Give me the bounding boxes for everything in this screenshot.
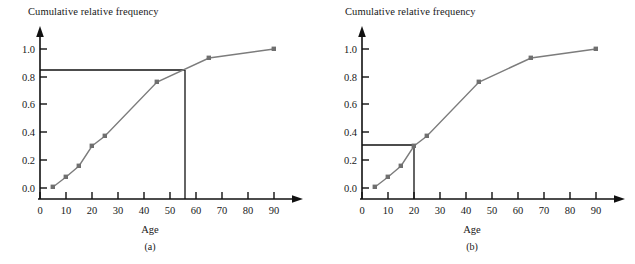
x-tick-label: 40 [461,205,472,216]
y-axis-a [36,26,44,199]
panel-caption-b: (b) [322,241,622,252]
x-tick-label: 70 [539,205,550,216]
x-tick-label: 70 [217,205,228,216]
reference-lines-b [362,145,414,199]
x-tick-label: 10 [383,205,394,216]
cumulative-frequency-curve-b [373,47,598,189]
y-axis-tick-labels-a: 0.0 0.2 0.4 0.6 0.8 1.0 [22,44,36,194]
x-axis-label-a: Age [0,224,300,235]
y-tick-label: 1.0 [344,44,357,55]
y-tick-label: 0.4 [344,127,358,138]
x-tick-label: 0 [37,205,42,216]
figure-cumulative-relative-frequency: Cumulative relative frequency [0,0,635,264]
x-tick-label: 60 [191,205,202,216]
x-tick-label: 90 [591,205,602,216]
y-tick-label: 0.0 [22,183,35,194]
x-tick-label: 10 [61,205,72,216]
x-tick-label: 30 [113,205,124,216]
x-tick-label: 80 [243,205,254,216]
x-axis-tick-labels-b: 0 10 20 30 40 50 60 70 80 90 [359,205,601,216]
cumulative-frequency-curve-a [51,47,276,189]
y-tick-label: 0.6 [344,99,357,110]
x-tick-label: 40 [139,205,150,216]
panel-caption-a: (a) [0,241,300,252]
y-tick-label: 1.0 [22,44,35,55]
y-tick-label: 0.6 [22,99,35,110]
x-tick-label: 30 [435,205,446,216]
y-tick-label: 0.4 [22,127,36,138]
y-tick-label: 0.0 [344,183,357,194]
x-axis-ticks-a [40,192,274,199]
x-tick-label: 20 [87,205,98,216]
data-point-markers-a [51,47,276,189]
x-tick-label: 80 [565,205,576,216]
y-axis-tick-labels-b: 0.0 0.2 0.4 0.6 0.8 1.0 [344,44,358,194]
chart-panel-a: Cumulative relative frequency [0,0,318,264]
x-tick-label: 60 [513,205,524,216]
chart-panel-b: Cumulative relative frequency 0.0 0.2 [317,0,635,264]
y-tick-label: 0.8 [22,72,35,83]
x-tick-label: 50 [487,205,498,216]
x-tick-label: 90 [269,205,280,216]
x-axis-ticks-b [362,192,596,199]
x-tick-label: 50 [165,205,176,216]
x-axis-tick-labels-a: 0 10 20 30 40 50 60 70 80 90 [37,205,279,216]
y-axis-b [358,26,366,199]
y-tick-label: 0.8 [344,72,357,83]
x-tick-label: 20 [409,205,420,216]
y-axis-ticks-b [362,49,369,188]
data-point-markers-b [373,47,598,189]
y-tick-label: 0.2 [344,155,357,166]
y-tick-label: 0.2 [22,155,35,166]
x-tick-label: 0 [359,205,364,216]
x-axis-label-b: Age [322,224,622,235]
